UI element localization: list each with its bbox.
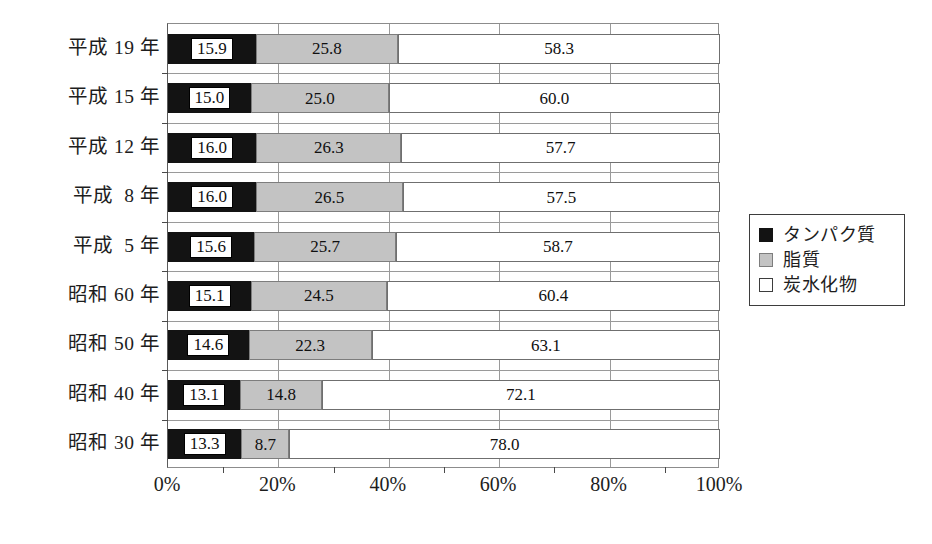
horizontal-gridline	[168, 321, 718, 322]
gray-square-icon	[759, 253, 773, 267]
legend-item-label: 炭水化物	[783, 276, 857, 294]
horizontal-gridline	[168, 271, 718, 272]
bar-segment-carbohydrate: 58.7	[396, 232, 720, 262]
horizontal-gridline	[168, 370, 718, 371]
bar-value-label-protein: 15.6	[190, 236, 232, 258]
bar-row: 16.026.357.7	[168, 133, 720, 163]
y-axis-label: 昭和 50 年	[30, 334, 160, 354]
x-axis-minor-tick	[334, 467, 335, 473]
bar-segment-protein: 15.6	[168, 232, 254, 262]
bar-row: 15.025.060.0	[168, 83, 720, 113]
y-axis-label: 平成 8 年	[30, 186, 160, 206]
y-axis-category-labels: 平成 19 年平成 15 年平成 12 年平成 8 年平成 5 年昭和 60 年…	[30, 23, 160, 468]
bar-row: 14.622.363.1	[168, 330, 720, 360]
bar-segment-fat: 24.5	[251, 281, 386, 311]
horizontal-gridline	[168, 420, 718, 421]
bar-segment-carbohydrate: 58.3	[398, 34, 720, 64]
bar-value-label-carbohydrate: 63.1	[531, 337, 561, 354]
bar-segment-carbohydrate: 63.1	[372, 330, 720, 360]
bar-value-label-carbohydrate: 57.7	[546, 139, 576, 156]
bar-row: 15.925.858.3	[168, 34, 720, 64]
bar-value-label-fat: 26.3	[314, 139, 344, 156]
x-axis-tick-label: 40%	[369, 474, 406, 494]
x-axis-minor-tick	[554, 467, 555, 473]
y-axis-minor-tick	[162, 420, 168, 421]
bar-row: 16.026.557.5	[168, 182, 720, 212]
bar-segment-protein: 15.0	[168, 83, 251, 113]
x-axis-tick-labels: 0%20%40%60%80%100%	[167, 474, 719, 504]
y-axis-label: 昭和 30 年	[30, 433, 160, 453]
y-axis-label: 昭和 40 年	[30, 384, 160, 404]
bar-segment-carbohydrate: 57.5	[403, 182, 720, 212]
y-axis-label: 平成 5 年	[30, 236, 160, 256]
bar-row: 13.114.872.1	[168, 380, 720, 410]
bar-value-label-carbohydrate: 57.5	[546, 189, 576, 206]
legend-item: 脂質	[759, 247, 895, 272]
bar-value-label-protein: 14.6	[187, 334, 229, 356]
y-axis-minor-tick	[162, 172, 168, 173]
horizontal-gridline	[168, 123, 718, 124]
y-axis-label: 平成 19 年	[30, 38, 160, 58]
horizontal-gridline	[168, 172, 718, 173]
bar-value-label-carbohydrate: 72.1	[506, 386, 536, 403]
bar-value-label-fat: 14.8	[266, 386, 296, 403]
bar-segment-protein: 13.3	[168, 429, 241, 459]
chart-legend: タンパク質脂質炭水化物	[749, 214, 905, 306]
x-axis-tick-label: 80%	[590, 474, 627, 494]
bar-value-label-protein: 16.0	[191, 137, 233, 159]
bar-segment-protein: 14.6	[168, 330, 249, 360]
x-axis-minor-tick	[223, 467, 224, 473]
bar-segment-fat: 22.3	[249, 330, 372, 360]
bar-segment-carbohydrate: 72.1	[322, 380, 720, 410]
bar-segment-fat: 26.3	[256, 133, 401, 163]
white-square-icon	[759, 278, 773, 292]
bar-segment-carbohydrate: 78.0	[289, 429, 720, 459]
x-axis-minor-tick	[665, 467, 666, 473]
bar-value-label-fat: 25.7	[310, 238, 340, 255]
legend-item: 炭水化物	[759, 272, 895, 297]
bar-segment-carbohydrate: 60.4	[387, 281, 720, 311]
x-axis-minor-tick	[444, 467, 445, 473]
bar-value-label-fat: 26.5	[315, 189, 345, 206]
bar-value-label-carbohydrate: 78.0	[490, 436, 520, 453]
legend-item-label: 脂質	[783, 251, 820, 269]
bar-segment-fat: 25.8	[256, 34, 398, 64]
bar-value-label-fat: 22.3	[295, 337, 325, 354]
bar-value-label-protein: 15.9	[191, 38, 233, 60]
bar-row: 13.38.778.0	[168, 429, 720, 459]
y-axis-minor-tick	[162, 321, 168, 322]
x-axis-tick-label: 60%	[480, 474, 517, 494]
plot-area: 15.925.858.315.025.060.016.026.357.716.0…	[167, 23, 719, 468]
bar-segment-protein: 16.0	[168, 133, 256, 163]
y-axis-label: 平成 15 年	[30, 87, 160, 107]
horizontal-gridline	[168, 73, 718, 74]
bar-value-label-protein: 15.1	[189, 285, 231, 307]
bar-value-label-protein: 13.3	[184, 433, 226, 455]
bar-segment-fat: 14.8	[240, 380, 322, 410]
bar-row: 15.625.758.7	[168, 232, 720, 262]
bar-value-label-protein: 16.0	[191, 186, 233, 208]
horizontal-gridline	[168, 222, 718, 223]
bar-segment-fat: 8.7	[241, 429, 289, 459]
bar-value-label-carbohydrate: 58.3	[544, 40, 574, 57]
bar-value-label-fat: 25.8	[312, 40, 342, 57]
bar-value-label-protein: 15.0	[189, 87, 231, 109]
bar-value-label-fat: 25.0	[305, 90, 335, 107]
stacked-bar-chart: 平成 19 年平成 15 年平成 12 年平成 8 年平成 5 年昭和 60 年…	[0, 0, 932, 544]
y-axis-minor-tick	[162, 73, 168, 74]
bar-segment-protein: 15.1	[168, 281, 251, 311]
x-axis-tick-label: 20%	[259, 474, 296, 494]
y-axis-minor-tick	[162, 222, 168, 223]
bar-segment-carbohydrate: 60.0	[389, 83, 720, 113]
bar-value-label-fat: 24.5	[304, 287, 334, 304]
bar-segment-protein: 13.1	[168, 380, 240, 410]
legend-item: タンパク質	[759, 222, 895, 247]
bar-segment-protein: 16.0	[168, 182, 256, 212]
legend-item-label: タンパク質	[783, 226, 876, 244]
y-axis-minor-tick	[162, 123, 168, 124]
bar-value-label-carbohydrate: 58.7	[543, 238, 573, 255]
bar-value-label-carbohydrate: 60.4	[538, 287, 568, 304]
black-square-icon	[759, 228, 773, 242]
y-axis-label: 平成 12 年	[30, 137, 160, 157]
bar-value-label-protein: 13.1	[183, 384, 225, 406]
